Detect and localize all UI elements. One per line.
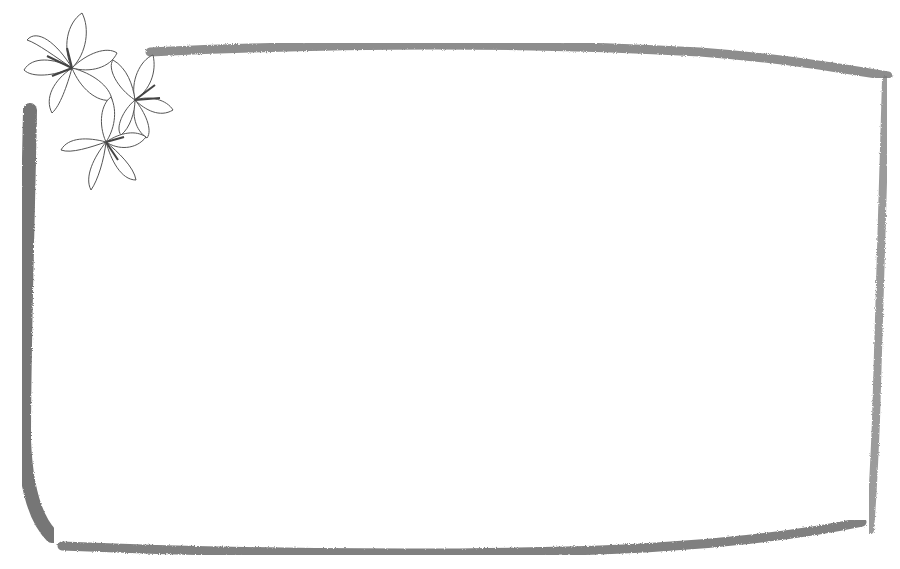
frame-left-edge xyxy=(24,110,52,536)
frame-bottom-edge xyxy=(62,522,862,553)
frame-content-area xyxy=(60,90,840,510)
frame-top-edge xyxy=(150,45,888,76)
frame-right-edge xyxy=(870,80,886,530)
